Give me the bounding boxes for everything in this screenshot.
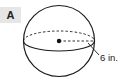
sphere-diagram: 6 in.: [0, 0, 129, 80]
leader-line: [88, 43, 99, 55]
radius-label: 6 in.: [100, 52, 118, 63]
